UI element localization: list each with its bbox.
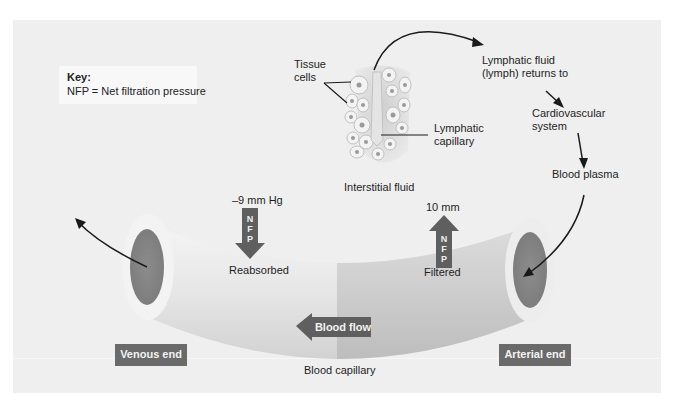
- label-line: Cardiovascular: [532, 107, 605, 120]
- nfp-letter: F: [243, 224, 257, 234]
- label-interstitial-fluid: Interstitial fluid: [344, 181, 414, 194]
- key-title: Key:: [67, 70, 189, 84]
- arterial-end-tag: Arterial end: [499, 344, 571, 366]
- key-definition: NFP = Net filtration pressure: [67, 84, 189, 99]
- label-line: Tissue: [294, 58, 326, 71]
- nfp-letter: N: [437, 234, 451, 244]
- label-line: (lymph) returns to: [482, 67, 568, 80]
- label-lymphatic-capillary: Lymphatic capillary: [434, 122, 484, 148]
- nfp-letter: F: [437, 244, 451, 254]
- nfp-letter: P: [437, 254, 451, 264]
- tissue-cells-illustration: [345, 65, 411, 162]
- label-blood-plasma: Blood plasma: [552, 168, 619, 181]
- label-tissue-cells: Tissue cells: [294, 58, 326, 84]
- nfp-letter: P: [243, 234, 257, 244]
- label-line: cells: [294, 71, 326, 84]
- label-line: system: [532, 120, 605, 133]
- key-legend: Key: NFP = Net filtration pressure: [59, 66, 197, 104]
- venous-end-tag: Venous end: [115, 344, 187, 366]
- label-reabsorbed: Reabsorbed: [229, 264, 289, 277]
- blood-flow-label: Blood flow: [314, 317, 372, 337]
- capillary-artwork: [0, 0, 673, 405]
- nfp-up-label: N F P: [437, 234, 451, 264]
- label-lymph-returns: Lymphatic fluid (lymph) returns to: [482, 54, 568, 80]
- label-cardiovascular-system: Cardiovascular system: [532, 107, 605, 133]
- label-line: Lymphatic: [434, 122, 484, 135]
- label-arterial-pressure: 10 mm: [426, 201, 460, 214]
- label-line: Lymphatic fluid: [482, 54, 568, 67]
- nfp-letter: N: [243, 214, 257, 224]
- blood-capillary-tube: [122, 214, 555, 359]
- label-blood-capillary: Blood capillary: [304, 364, 376, 377]
- nfp-down-label: N F P: [243, 214, 257, 244]
- label-line: capillary: [434, 135, 484, 148]
- label-venous-pressure: –9 mm Hg: [232, 194, 283, 207]
- label-filtered: Filtered: [424, 266, 461, 279]
